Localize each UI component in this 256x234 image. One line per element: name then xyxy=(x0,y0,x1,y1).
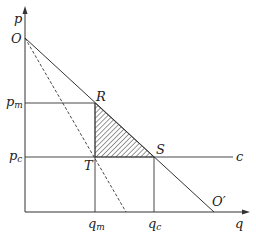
cost-line-label: c xyxy=(236,149,244,164)
point-O-label: O xyxy=(11,31,22,46)
point-O-prime-label: O′ xyxy=(212,194,226,209)
pc-label: pc xyxy=(9,148,22,164)
demand-line xyxy=(25,38,214,212)
x-axis-label: q xyxy=(235,216,243,231)
qm-label: qm xyxy=(88,216,105,232)
monopoly-diagram: p q O O′ R S T pm pc qm qc c xyxy=(0,0,256,234)
point-T-label: T xyxy=(84,158,94,173)
point-S-label: S xyxy=(156,142,165,157)
x-axis-arrow-icon xyxy=(242,210,250,215)
pm-label: pm xyxy=(6,94,23,110)
qc-label: qc xyxy=(148,216,161,232)
y-axis-arrow-icon xyxy=(23,6,28,14)
point-R-label: R xyxy=(95,89,106,104)
y-axis-label: p xyxy=(14,11,23,26)
